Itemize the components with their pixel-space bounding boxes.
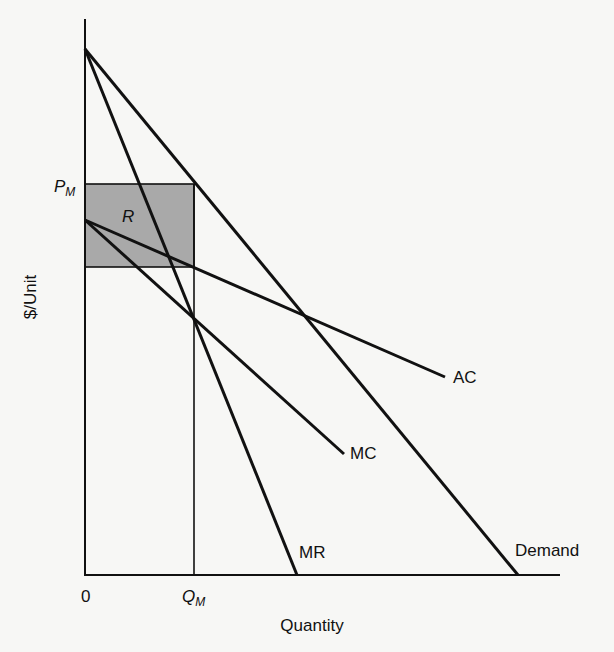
- demand-label: Demand: [515, 541, 579, 560]
- y-axis-title: $/Unit: [21, 275, 40, 320]
- region-label: R: [122, 207, 134, 226]
- ac-curve: [85, 220, 445, 377]
- ac-label: AC: [453, 368, 477, 387]
- qm-label: QM: [182, 587, 205, 609]
- origin-label: 0: [81, 587, 90, 606]
- demand-curve: [85, 49, 518, 575]
- mr-curve: [85, 49, 297, 575]
- mc-curve: [85, 220, 344, 454]
- mr-label: MR: [299, 543, 325, 562]
- mc-label: MC: [350, 444, 376, 463]
- pm-label: PM: [54, 177, 75, 199]
- x-axis-title: Quantity: [280, 616, 344, 635]
- monopoly-diagram: R PM 0 QM Quantity $/Unit AC MC MR Deman…: [0, 0, 614, 652]
